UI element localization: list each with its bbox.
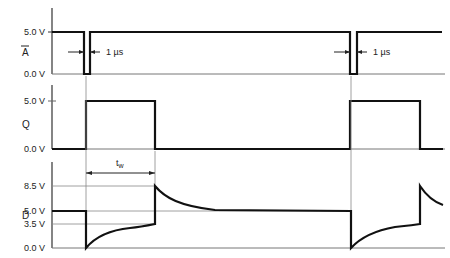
- tw-annotation: tw: [86, 158, 155, 175]
- a-tick-label-0v: 0.0 V: [24, 69, 45, 79]
- q-waveform: [52, 101, 443, 149]
- a-pulse-width-label-1: 1 µs: [106, 47, 124, 57]
- d-waveform: [52, 186, 443, 248]
- q-tick-label-5v: 5.0 V: [24, 96, 45, 106]
- arrowhead-icon: [149, 171, 155, 175]
- d-tick-label-0v: 0.0 V: [24, 243, 45, 253]
- signal-q-panel: 5.0 V 0.0 V Q: [22, 85, 445, 154]
- tw-label: tw: [116, 158, 125, 169]
- a-signal-label: A: [22, 47, 29, 58]
- d-tick-label-8v5: 8.5 V: [24, 181, 45, 191]
- a-pulse-width-label-2: 1 µs: [373, 47, 391, 57]
- arrowhead-icon: [86, 171, 92, 175]
- signal-d-panel: 8.5 V 5.0 V 3.5 V 0.0 V D: [22, 162, 445, 253]
- timing-diagram: 5.0 V 0.0 V A 1 µs 1 µs 5.0 V 0.0 V Q: [0, 0, 450, 258]
- signal-a-bar-panel: 5.0 V 0.0 V A 1 µs 1 µs: [21, 8, 445, 79]
- d-signal-label: D: [22, 210, 29, 221]
- q-tick-label-0v: 0.0 V: [24, 144, 45, 154]
- a-tick-label-5v: 5.0 V: [24, 27, 45, 37]
- q-signal-label: Q: [22, 119, 30, 130]
